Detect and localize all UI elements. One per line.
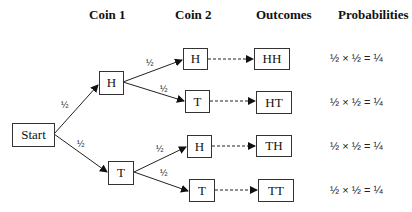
- header-coin2: Coin 2: [175, 7, 211, 23]
- edge-label-start-h: ½: [61, 100, 69, 110]
- probability-th: ½ × ½ = ¼: [330, 140, 383, 152]
- node-coin2-hh: H: [183, 48, 208, 70]
- header-outcomes: Outcomes: [256, 7, 312, 23]
- node-outcome-ht: HT: [256, 91, 292, 114]
- node-outcome-tt: TT: [258, 179, 294, 202]
- node-coin2-th: H: [187, 135, 212, 158]
- node-coin1-h: H: [99, 71, 124, 95]
- edge-label-h-t: ½: [160, 84, 168, 94]
- node-coin2-tt: T: [189, 179, 215, 202]
- probability-tt: ½ × ½ = ¼: [330, 184, 383, 196]
- edge-label-h-h: ½: [146, 58, 154, 68]
- probability-tree-diagram: Coin 1 Coin 2 Outcomes Probabilities Sta…: [0, 0, 412, 212]
- node-outcome-hh: HH: [254, 48, 290, 70]
- node-coin1-t: T: [108, 161, 134, 185]
- probability-hh: ½ × ½ = ¼: [330, 52, 383, 64]
- node-start: Start: [12, 123, 55, 147]
- node-outcome-th: TH: [256, 135, 292, 157]
- header-coin1: Coin 1: [89, 7, 125, 23]
- probability-ht: ½ × ½ = ¼: [330, 96, 383, 108]
- edge-h-t: [123, 82, 184, 101]
- edge-label-t-h: ½: [156, 144, 164, 154]
- header-probabilities: Probabilities: [338, 7, 409, 23]
- node-coin2-ht: T: [185, 90, 210, 113]
- edge-label-t-t: ½: [160, 168, 168, 178]
- edge-label-start-t: ½: [77, 139, 85, 149]
